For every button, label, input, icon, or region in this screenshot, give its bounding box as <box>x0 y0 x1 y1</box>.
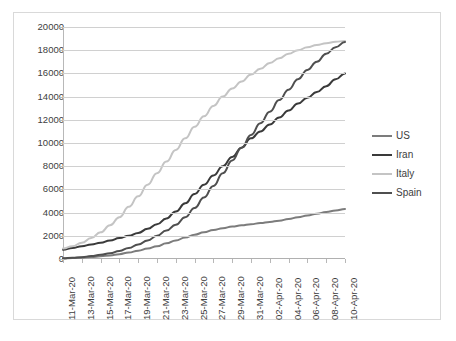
y-axis-tick-label: 10000 <box>20 138 64 147</box>
legend-line-swatch <box>372 173 392 175</box>
y-gridline <box>63 213 345 214</box>
x-axis-tick-mark <box>82 259 83 263</box>
x-axis-tick-mark <box>101 259 102 263</box>
plot-area <box>63 27 345 259</box>
x-axis-tick-label: 21-Mar-20 <box>161 276 171 320</box>
y-axis-tick-label: 8000 <box>20 161 64 170</box>
y-gridline <box>63 73 345 74</box>
y-axis-tick-labels: 0200040006000800010000120001400016000180… <box>20 20 64 266</box>
y-gridline <box>63 189 345 190</box>
series-line-us <box>63 209 345 258</box>
x-axis-tick-label: 17-Mar-20 <box>123 276 133 320</box>
x-axis-tick-label: 27-Mar-20 <box>217 276 227 320</box>
x-axis-tick-mark <box>63 259 64 263</box>
x-axis-tick-label: 06-Apr-20 <box>311 278 321 320</box>
x-axis-tick-label: 11-Mar-20 <box>67 277 77 320</box>
x-axis-tick-mark <box>232 259 233 263</box>
x-axis-tick-label: 31-Mar-20 <box>255 276 265 320</box>
x-axis-tick-label: 10-Apr-20 <box>349 278 359 320</box>
x-axis-tick-mark <box>251 259 252 263</box>
y-gridline <box>63 166 345 167</box>
line-chart: 0200040006000800010000120001400016000180… <box>0 0 456 341</box>
y-axis-tick-mark <box>59 50 63 51</box>
y-axis-tick-label: 4000 <box>20 208 64 217</box>
x-axis-tick-label: 15-Mar-20 <box>105 276 115 320</box>
legend-line-swatch <box>372 192 392 194</box>
y-axis-tick-label: 16000 <box>20 68 64 77</box>
x-axis-tick-mark <box>345 259 346 263</box>
y-axis-tick-label: 6000 <box>20 184 64 193</box>
x-axis-tick-label: 23-Mar-20 <box>180 276 190 320</box>
x-axis-tick-mark <box>138 259 139 263</box>
legend-item-us[interactable]: US <box>372 126 452 145</box>
x-axis-tick-mark <box>307 259 308 263</box>
y-gridline <box>63 27 345 28</box>
x-axis-tick-label: 02-Apr-20 <box>274 278 284 320</box>
x-axis-tick-mark <box>270 259 271 263</box>
y-axis-tick-mark <box>59 236 63 237</box>
x-axis-tick-mark <box>157 259 158 263</box>
x-axis-tick-label: 08-Apr-20 <box>330 278 340 320</box>
y-axis-tick-mark <box>59 189 63 190</box>
x-axis-tick-label: 19-Mar-20 <box>142 276 152 320</box>
x-axis-tick-mark <box>289 259 290 263</box>
x-axis-tick-mark <box>119 259 120 263</box>
y-gridline <box>63 143 345 144</box>
legend-item-label: US <box>396 131 410 141</box>
y-axis-tick-label: 18000 <box>20 45 64 54</box>
x-axis-tick-label: 04-Apr-20 <box>293 278 303 320</box>
y-gridline <box>63 50 345 51</box>
x-axis-tick-label: 13-Mar-20 <box>86 276 96 320</box>
y-axis-tick-mark <box>59 97 63 98</box>
x-axis-tick-label: 29-Mar-20 <box>236 276 246 320</box>
x-axis-tick-mark <box>195 259 196 263</box>
y-axis-tick-mark <box>59 166 63 167</box>
y-axis-tick-mark <box>59 213 63 214</box>
y-axis-tick-label: 0 <box>20 254 64 263</box>
x-axis-tick-labels: 11-Mar-2013-Mar-2015-Mar-2017-Mar-2019-M… <box>63 264 345 324</box>
x-axis-tick-mark <box>176 259 177 263</box>
x-axis-tick-mark <box>326 259 327 263</box>
y-gridline <box>63 97 345 98</box>
x-axis-tick-mark <box>213 259 214 263</box>
legend-item-iran[interactable]: Iran <box>372 145 452 164</box>
legend-item-italy[interactable]: Italy <box>372 164 452 183</box>
legend-item-label: Iran <box>396 150 413 160</box>
legend-item-label: Italy <box>396 169 414 179</box>
legend-line-swatch <box>372 154 392 156</box>
legend-item-spain[interactable]: Spain <box>372 183 452 202</box>
series-line-iran <box>63 73 345 249</box>
x-axis-tick-label: 25-Mar-20 <box>199 276 209 320</box>
y-axis-tick-mark <box>59 27 63 28</box>
y-axis-tick-label: 20000 <box>20 22 64 31</box>
y-axis-tick-label: 12000 <box>20 115 64 124</box>
chart-legend: USIranItalySpain <box>372 126 452 202</box>
legend-line-swatch <box>372 135 392 137</box>
y-gridline <box>63 236 345 237</box>
y-gridline <box>63 120 345 121</box>
legend-item-label: Spain <box>396 188 422 198</box>
y-axis-tick-label: 14000 <box>20 92 64 101</box>
y-axis-tick-mark <box>59 120 63 121</box>
y-axis-tick-mark <box>59 143 63 144</box>
series-line-spain <box>63 42 345 258</box>
y-axis-tick-mark <box>59 73 63 74</box>
y-axis-tick-label: 2000 <box>20 231 64 240</box>
